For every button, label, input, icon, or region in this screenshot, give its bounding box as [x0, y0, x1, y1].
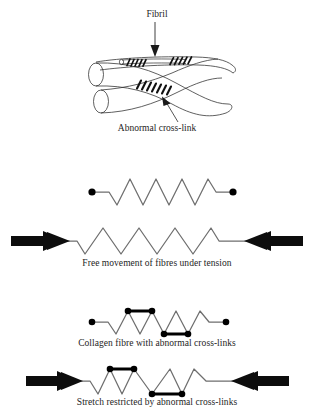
collagen-crosslink-figure: Fibril Abnormal cross-link Free movement…: [0, 0, 314, 417]
tension-arrow-right: [244, 231, 303, 251]
caption-collagen-fibre: Collagen fibre with abnormal cross-links: [0, 338, 314, 348]
crosslink-band-upper-left: [127, 59, 146, 66]
caption-stretch-restricted: Stretch restricted by abnormal cross-lin…: [0, 397, 314, 407]
zigzag-path: [66, 228, 248, 254]
crosslink-bottom: [161, 331, 192, 338]
fibril-bundle-illustration: [89, 22, 236, 122]
restricted-zigzag-fibre: [26, 366, 289, 398]
fibril-label: Fibril: [0, 9, 314, 19]
tension-arrow-left: [26, 371, 83, 391]
zigzag-path: [79, 369, 235, 394]
figure-canvas: [0, 0, 314, 417]
abnormal-crosslink-pointer: [162, 97, 178, 123]
abnormal-crosslink-label: Abnormal cross-link: [0, 123, 314, 133]
crosslinked-zigzag-fibre: [89, 308, 230, 338]
crosslink-top: [125, 308, 156, 315]
fibre-end-node-right: [223, 319, 230, 326]
zigzag-path: [94, 311, 224, 334]
fibre-end-node-left: [89, 319, 96, 326]
zigzag-path: [94, 179, 232, 205]
tensioned-zigzag-fibre: [11, 228, 303, 254]
fibril-pointer-arrow: [151, 22, 160, 57]
crosslink-top: [107, 366, 138, 373]
relaxed-zigzag-fibre: [88, 179, 236, 205]
tension-arrow-right: [231, 371, 289, 391]
caption-free-movement: Free movement of fibres under tension: [0, 258, 314, 268]
crosslink-band-central: [137, 81, 171, 95]
fibre-end-node-left: [88, 188, 95, 195]
fibre-end-node-right: [229, 188, 236, 195]
tension-arrow-left: [11, 231, 70, 251]
